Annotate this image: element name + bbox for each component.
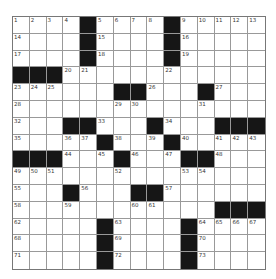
crossword-cell[interactable]: 70 [198,235,215,252]
crossword-cell[interactable]: 9 [181,17,198,34]
crossword-cell[interactable] [231,185,248,202]
crossword-cell[interactable] [131,135,148,152]
crossword-cell[interactable]: 17 [13,51,30,68]
crossword-cell[interactable] [181,101,198,118]
crossword-cell[interactable] [231,34,248,51]
crossword-cell[interactable] [231,235,248,252]
crossword-cell[interactable] [231,151,248,168]
crossword-cell[interactable] [181,67,198,84]
crossword-cell[interactable]: 32 [13,118,30,135]
crossword-cell[interactable] [215,67,232,84]
crossword-cell[interactable] [198,135,215,152]
crossword-cell[interactable] [147,252,164,269]
crossword-cell[interactable]: 16 [181,34,198,51]
crossword-cell[interactable] [63,252,80,269]
crossword-cell[interactable]: 42 [231,135,248,152]
crossword-cell[interactable]: 22 [164,67,181,84]
crossword-cell[interactable]: 66 [231,219,248,236]
crossword-cell[interactable] [80,252,97,269]
crossword-cell[interactable] [131,235,148,252]
crossword-cell[interactable] [231,101,248,118]
crossword-cell[interactable] [80,168,97,185]
crossword-cell[interactable] [63,168,80,185]
crossword-cell[interactable]: 44 [63,151,80,168]
crossword-cell[interactable]: 14 [13,34,30,51]
crossword-cell[interactable] [131,219,148,236]
crossword-cell[interactable]: 25 [47,84,64,101]
crossword-cell[interactable] [147,168,164,185]
crossword-cell[interactable] [80,235,97,252]
crossword-cell[interactable] [63,51,80,68]
crossword-cell[interactable]: 65 [215,219,232,236]
crossword-cell[interactable] [47,219,64,236]
crossword-cell[interactable] [47,51,64,68]
crossword-cell[interactable] [30,135,47,152]
crossword-cell[interactable]: 62 [13,219,30,236]
crossword-cell[interactable] [131,168,148,185]
crossword-cell[interactable] [198,34,215,51]
crossword-cell[interactable]: 49 [13,168,30,185]
crossword-cell[interactable] [248,168,265,185]
crossword-cell[interactable] [63,235,80,252]
crossword-cell[interactable] [248,34,265,51]
crossword-cell[interactable] [80,202,97,219]
crossword-cell[interactable] [181,202,198,219]
crossword-cell[interactable]: 54 [198,168,215,185]
crossword-cell[interactable]: 73 [198,252,215,269]
crossword-cell[interactable] [63,219,80,236]
crossword-cell[interactable]: 57 [164,185,181,202]
crossword-cell[interactable] [231,168,248,185]
crossword-cell[interactable]: 31 [198,101,215,118]
crossword-cell[interactable]: 30 [131,101,148,118]
crossword-cell[interactable] [30,101,47,118]
crossword-cell[interactable] [30,118,47,135]
crossword-cell[interactable]: 7 [131,17,148,34]
crossword-cell[interactable]: 36 [63,135,80,152]
crossword-cell[interactable] [147,67,164,84]
crossword-cell[interactable] [248,101,265,118]
crossword-cell[interactable] [47,34,64,51]
crossword-cell[interactable] [30,252,47,269]
crossword-cell[interactable] [114,202,131,219]
crossword-cell[interactable] [215,168,232,185]
crossword-cell[interactable] [147,219,164,236]
crossword-cell[interactable] [114,67,131,84]
crossword-cell[interactable] [231,252,248,269]
crossword-cell[interactable] [198,185,215,202]
crossword-cell[interactable] [131,51,148,68]
crossword-cell[interactable] [248,185,265,202]
crossword-cell[interactable] [80,101,97,118]
crossword-cell[interactable] [30,219,47,236]
crossword-cell[interactable] [97,67,114,84]
crossword-cell[interactable] [97,84,114,101]
crossword-cell[interactable] [114,185,131,202]
crossword-cell[interactable] [131,34,148,51]
crossword-cell[interactable] [47,135,64,152]
crossword-cell[interactable] [231,51,248,68]
crossword-cell[interactable]: 1 [13,17,30,34]
crossword-cell[interactable] [47,101,64,118]
crossword-cell[interactable] [164,84,181,101]
crossword-cell[interactable]: 60 [131,202,148,219]
crossword-cell[interactable]: 40 [181,135,198,152]
crossword-cell[interactable]: 11 [215,17,232,34]
crossword-cell[interactable] [147,151,164,168]
crossword-cell[interactable] [30,185,47,202]
crossword-cell[interactable] [114,34,131,51]
crossword-cell[interactable] [114,118,131,135]
crossword-cell[interactable] [30,202,47,219]
crossword-cell[interactable]: 23 [13,84,30,101]
crossword-cell[interactable] [164,101,181,118]
crossword-cell[interactable] [30,235,47,252]
crossword-cell[interactable] [248,151,265,168]
crossword-cell[interactable] [47,235,64,252]
crossword-cell[interactable] [215,34,232,51]
crossword-cell[interactable]: 55 [13,185,30,202]
crossword-cell[interactable] [63,34,80,51]
crossword-cell[interactable]: 37 [80,135,97,152]
crossword-cell[interactable] [164,202,181,219]
crossword-cell[interactable] [47,185,64,202]
crossword-cell[interactable]: 72 [114,252,131,269]
crossword-cell[interactable]: 34 [164,118,181,135]
crossword-cell[interactable] [97,101,114,118]
